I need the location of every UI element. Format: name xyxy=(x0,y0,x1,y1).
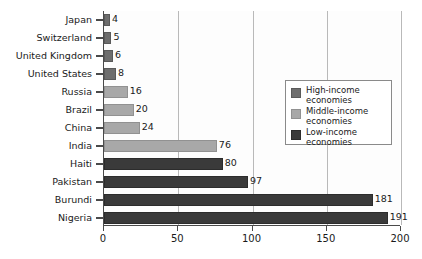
bar-japan xyxy=(104,14,110,26)
value-label-russia: 16 xyxy=(130,84,142,98)
x-axis-label-100: 100 xyxy=(242,233,261,244)
bar-china xyxy=(104,122,140,134)
category-tick xyxy=(96,19,103,21)
value-label-china: 24 xyxy=(142,120,154,134)
x-axis-label-50: 50 xyxy=(171,233,184,244)
bar-russia xyxy=(104,86,128,98)
bar-row xyxy=(104,11,401,29)
value-label-india: 76 xyxy=(219,138,231,152)
category-tick xyxy=(96,217,103,219)
bar-india xyxy=(104,140,217,152)
value-label-burundi: 181 xyxy=(375,192,393,206)
category-tick xyxy=(96,181,103,183)
value-label-japan: 4 xyxy=(112,12,118,26)
bar-row xyxy=(104,191,401,209)
bar-nigeria xyxy=(104,212,388,224)
category-tick xyxy=(96,55,103,57)
legend-item-middle: Middle-incomeeconomies xyxy=(291,107,391,125)
x-axis-label-200: 200 xyxy=(390,233,409,244)
category-label-india: India xyxy=(0,139,92,153)
bar-pakistan xyxy=(104,176,248,188)
bar-brazil xyxy=(104,104,134,116)
bar-united-kingdom xyxy=(104,50,113,62)
bar-chart: JapanSwitzerlandUnited KingdomUnited Sta… xyxy=(0,0,422,259)
value-label-nigeria: 191 xyxy=(390,210,408,224)
gridline-200 xyxy=(401,11,402,225)
category-label-nigeria: Nigeria xyxy=(0,211,92,225)
legend-label-high: High-incomeeconomies xyxy=(306,86,360,105)
bar-row xyxy=(104,155,401,173)
category-tick xyxy=(96,127,103,129)
x-tick-150 xyxy=(326,226,327,231)
legend-item-low: Low-incomeeconomies xyxy=(291,128,391,146)
value-label-brazil: 20 xyxy=(136,102,148,116)
value-label-pakistan: 97 xyxy=(250,174,262,188)
bar-row xyxy=(104,29,401,47)
category-label-united-kingdom: United Kingdom xyxy=(0,49,92,63)
bar-row xyxy=(104,47,401,65)
category-label-burundi: Burundi xyxy=(0,193,92,207)
value-label-switzerland: 5 xyxy=(113,30,119,44)
bar-haiti xyxy=(104,158,223,170)
category-label-brazil: Brazil xyxy=(0,103,92,117)
bar-switzerland xyxy=(104,32,111,44)
x-tick-100 xyxy=(252,226,253,231)
bar-united-states xyxy=(104,68,116,80)
category-label-pakistan: Pakistan xyxy=(0,175,92,189)
bar-burundi xyxy=(104,194,373,206)
category-tick xyxy=(96,91,103,93)
value-label-united-states: 8 xyxy=(118,66,124,80)
bar-row xyxy=(104,209,401,227)
category-label-china: China xyxy=(0,121,92,135)
legend-item-high: High-incomeeconomies xyxy=(291,86,391,104)
category-label-japan: Japan xyxy=(0,13,92,27)
x-tick-200 xyxy=(400,226,401,231)
category-tick xyxy=(96,145,103,147)
x-tick-50 xyxy=(177,226,178,231)
category-tick xyxy=(96,37,103,39)
category-label-switzerland: Switzerland xyxy=(0,31,92,45)
legend-swatch-high xyxy=(291,88,301,98)
x-tick-0 xyxy=(103,226,104,231)
category-tick xyxy=(96,109,103,111)
category-label-haiti: Haiti xyxy=(0,157,92,171)
x-axis-label-150: 150 xyxy=(316,233,335,244)
legend-label-middle: Middle-incomeeconomies xyxy=(306,107,368,126)
value-label-haiti: 80 xyxy=(225,156,237,170)
chart-legend: High-incomeeconomiesMiddle-incomeeconomi… xyxy=(285,80,392,145)
legend-label-low: Low-incomeeconomies xyxy=(306,128,357,147)
legend-swatch-middle xyxy=(291,109,301,119)
category-tick xyxy=(96,199,103,201)
x-axis-label-0: 0 xyxy=(100,233,106,244)
category-tick xyxy=(96,163,103,165)
category-tick xyxy=(96,73,103,75)
value-label-united-kingdom: 6 xyxy=(115,48,121,62)
category-label-russia: Russia xyxy=(0,85,92,99)
legend-swatch-low xyxy=(291,130,301,140)
category-label-united-states: United States xyxy=(0,67,92,81)
